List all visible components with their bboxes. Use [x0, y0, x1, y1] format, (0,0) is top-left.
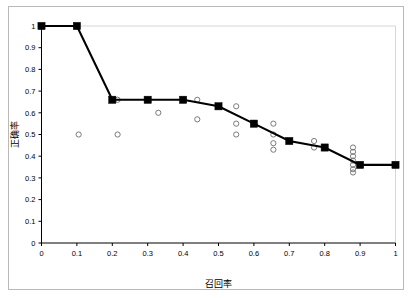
y-axis-title: 正确率 [9, 121, 20, 148]
curve-path [42, 26, 396, 165]
scatter-point [350, 170, 355, 175]
scatter-point [271, 147, 276, 152]
x-tick-label: 0.4 [178, 249, 188, 258]
y-tick-label: 0.9 [25, 43, 35, 52]
chart-figure: 00.10.20.30.40.50.60.70.80.91 00.10.20.3… [0, 0, 414, 298]
data-point-marker [321, 144, 328, 151]
x-tick-label: 0.9 [355, 249, 365, 258]
line-series-markers [38, 22, 399, 168]
scatter-point [156, 110, 161, 115]
line-series [42, 26, 396, 165]
y-tick-label: 0.2 [25, 195, 35, 204]
scatter-point [271, 141, 276, 146]
data-point-marker [286, 137, 293, 144]
scatter-point [115, 132, 120, 137]
y-tick-label: 0.1 [25, 217, 35, 226]
x-tick-label: 0.8 [319, 249, 329, 258]
scatter-point [76, 132, 81, 137]
x-axis-tick-labels: 00.10.20.30.40.50.60.70.80.91 [39, 249, 397, 258]
x-axis-title: 召回率 [205, 278, 232, 289]
scatter-point [234, 104, 239, 109]
precision-recall-chart: 00.10.20.30.40.50.60.70.80.91 00.10.20.3… [0, 0, 414, 298]
data-point-marker [109, 96, 116, 103]
x-tick-label: 0.2 [107, 249, 117, 258]
data-point-marker [392, 161, 399, 168]
scatter-point [195, 117, 200, 122]
x-tick-label: 0.1 [72, 249, 82, 258]
data-point-marker [38, 22, 45, 29]
y-tick-label: 0.5 [25, 130, 35, 139]
x-tick-label: 0.6 [249, 249, 259, 258]
data-point-marker [250, 120, 257, 127]
y-tick-label: 0.6 [25, 109, 35, 118]
y-tick-label: 0 [31, 239, 35, 248]
data-point-marker [73, 22, 80, 29]
data-point-marker [180, 96, 187, 103]
x-tick-label: 0.7 [284, 249, 294, 258]
scatter-point [311, 138, 316, 143]
y-tick-label: 0.7 [25, 87, 35, 96]
data-point-marker [144, 96, 151, 103]
data-point-marker [215, 103, 222, 110]
x-tick-label: 0.3 [142, 249, 152, 258]
plot-area-border [42, 26, 396, 243]
y-tick-label: 1 [31, 22, 35, 31]
scatter-point [234, 132, 239, 137]
scatter-point [271, 121, 276, 126]
data-point-marker [357, 161, 364, 168]
x-tick-label: 0.5 [213, 249, 223, 258]
y-tick-label: 0.8 [25, 65, 35, 74]
y-axis-tick-labels: 00.10.20.30.40.50.60.70.80.91 [25, 22, 35, 248]
x-tick-label: 1 [393, 249, 397, 258]
y-tick-label: 0.3 [25, 174, 35, 183]
scatter-point [234, 121, 239, 126]
x-tick-label: 0 [39, 249, 43, 258]
axis-lines [42, 26, 396, 243]
y-tick-label: 0.4 [25, 152, 35, 161]
